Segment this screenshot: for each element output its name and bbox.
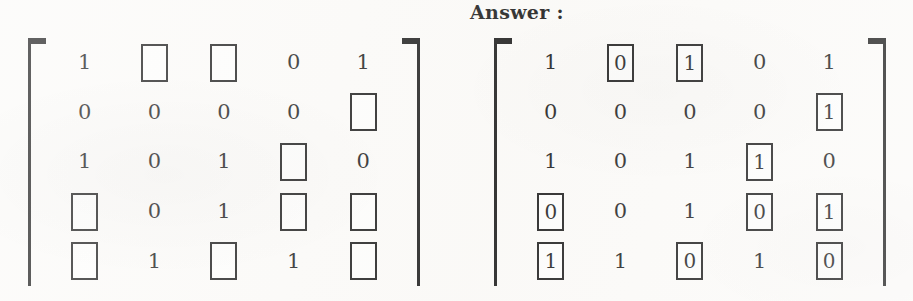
cell-digit: 0 (78, 102, 91, 123)
matrix-cell[interactable] (328, 187, 398, 237)
matrix-cell: 1 (725, 236, 795, 286)
blank-answer-box[interactable] (350, 242, 377, 280)
matrix-cell: 1 (655, 187, 725, 237)
cell-digit: 1 (753, 251, 766, 272)
answer-matrix-grid: 1010100001101100010111010 (516, 38, 864, 286)
matrix-cell[interactable]: 1 (794, 88, 864, 138)
matrix-cell[interactable]: 1 (516, 236, 586, 286)
cell-digit: 1 (544, 251, 557, 271)
question-matrix: 101000010100111 (28, 38, 420, 286)
matrix-cell: 0 (328, 137, 398, 187)
cell-digit: 0 (614, 102, 627, 123)
matrix-cell: 1 (259, 236, 329, 286)
filled-answer-box[interactable]: 0 (816, 242, 843, 280)
cell-digit: 1 (683, 201, 696, 222)
matrix-cell[interactable] (120, 38, 190, 88)
cell-digit: 1 (544, 52, 557, 73)
cell-digit: 0 (823, 251, 836, 271)
cell-digit: 0 (684, 251, 697, 271)
blank-answer-box[interactable] (350, 193, 377, 231)
matrix-cell: 1 (794, 38, 864, 88)
blank-answer-box[interactable] (280, 143, 307, 181)
matrix-cell: 1 (516, 137, 586, 187)
matrix-cell[interactable] (50, 187, 120, 237)
matrix-cell[interactable]: 0 (794, 236, 864, 286)
filled-answer-box[interactable]: 1 (676, 44, 703, 82)
answer-heading: Answer : (470, 1, 564, 23)
matrix-cell: 0 (794, 137, 864, 187)
cell-digit: 1 (753, 152, 766, 172)
answer-matrix: 1010100001101100010111010 (494, 38, 886, 286)
matrix-cell: 1 (655, 137, 725, 187)
cell-digit: 1 (78, 151, 91, 172)
blank-answer-box[interactable] (210, 242, 237, 280)
blank-answer-box[interactable] (141, 44, 168, 82)
matrix-cell: 1 (120, 236, 190, 286)
matrix-cell: 0 (189, 88, 259, 138)
blank-answer-box[interactable] (350, 93, 377, 131)
cell-digit: 1 (614, 251, 627, 272)
cell-digit: 0 (614, 201, 627, 222)
matrix-cell[interactable] (189, 236, 259, 286)
matrix-cell[interactable]: 1 (655, 38, 725, 88)
cell-digit: 0 (148, 102, 161, 123)
cell-digit: 1 (357, 52, 370, 73)
matrix-cell[interactable] (259, 187, 329, 237)
matrix-cell: 0 (50, 88, 120, 138)
cell-digit: 0 (614, 53, 627, 73)
matrix-cell: 0 (120, 187, 190, 237)
matrix-left-bracket (494, 38, 512, 286)
filled-answer-box[interactable]: 1 (537, 242, 564, 280)
blank-answer-box[interactable] (280, 193, 307, 231)
cell-digit: 1 (823, 52, 836, 73)
matrix-cell[interactable]: 1 (794, 187, 864, 237)
cell-digit: 1 (217, 151, 230, 172)
matrix-left-bracket (28, 38, 46, 286)
matrix-cell: 0 (725, 38, 795, 88)
matrix-cell: 0 (586, 137, 656, 187)
matrix-cell: 1 (50, 38, 120, 88)
matrix-cell: 0 (516, 88, 586, 138)
matrix-cell: 0 (586, 187, 656, 237)
matrix-cell[interactable] (259, 137, 329, 187)
matrix-cell: 0 (259, 38, 329, 88)
matrix-cell: 1 (189, 137, 259, 187)
filled-answer-box[interactable]: 1 (746, 143, 773, 181)
matrix-cell: 0 (586, 88, 656, 138)
matrix-cell: 0 (120, 137, 190, 187)
cell-digit: 0 (148, 151, 161, 172)
matrix-right-bracket (868, 38, 886, 286)
matrix-cell: 0 (259, 88, 329, 138)
blank-answer-box[interactable] (210, 44, 237, 82)
matrix-cell[interactable]: 0 (586, 38, 656, 88)
matrix-cell: 1 (189, 187, 259, 237)
cell-digit: 0 (287, 102, 300, 123)
cell-digit: 0 (753, 52, 766, 73)
filled-answer-box[interactable]: 0 (607, 44, 634, 82)
blank-answer-box[interactable] (71, 193, 98, 231)
filled-answer-box[interactable]: 0 (746, 193, 773, 231)
filled-answer-box[interactable]: 1 (816, 193, 843, 231)
matrix-cell[interactable]: 0 (725, 187, 795, 237)
matrix-cell: 1 (516, 38, 586, 88)
cell-digit: 1 (287, 251, 300, 272)
matrix-cell: 1 (328, 38, 398, 88)
cell-digit: 0 (544, 102, 557, 123)
matrix-cell[interactable] (328, 236, 398, 286)
filled-answer-box[interactable]: 0 (676, 242, 703, 280)
matrix-cell[interactable] (50, 236, 120, 286)
cell-digit: 0 (753, 202, 766, 222)
cell-digit: 1 (148, 251, 161, 272)
cell-digit: 0 (544, 202, 557, 222)
cell-digit: 0 (357, 151, 370, 172)
filled-answer-box[interactable]: 1 (816, 93, 843, 131)
cell-digit: 0 (614, 151, 627, 172)
matrix-cell[interactable]: 0 (655, 236, 725, 286)
filled-answer-box[interactable]: 0 (537, 193, 564, 231)
matrix-cell[interactable] (189, 38, 259, 88)
blank-answer-box[interactable] (71, 242, 98, 280)
matrix-cell[interactable]: 1 (725, 137, 795, 187)
matrix-cell[interactable] (328, 88, 398, 138)
matrix-right-bracket (402, 38, 420, 286)
matrix-cell[interactable]: 0 (516, 187, 586, 237)
